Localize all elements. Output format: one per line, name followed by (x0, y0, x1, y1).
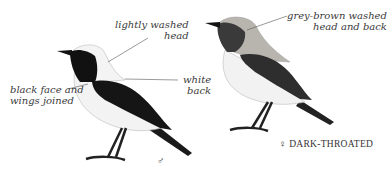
annotation-black-face: black face and wings joined (10, 84, 84, 106)
annotation-lightly-washed-head: lightly washed head (115, 19, 189, 41)
female-wheatear-illustration (205, 17, 334, 131)
female-symbol: ♀ (279, 139, 286, 149)
annotation-grey-brown-head-back: grey-brown washed head and back (287, 10, 387, 32)
variant-label: DARK-THROATED (289, 139, 373, 149)
annotation-white-back: white back (183, 74, 211, 96)
male-symbol: ♂ (157, 155, 165, 166)
female-caption: ♀ DARK-THROATED (279, 139, 373, 149)
